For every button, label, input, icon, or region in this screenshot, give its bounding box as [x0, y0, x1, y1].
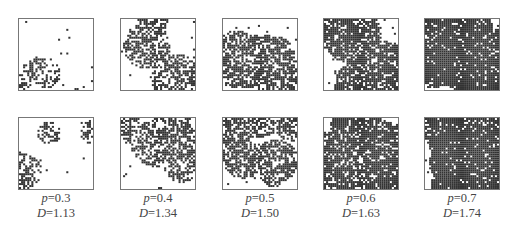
percolation-panel-r1-c5 [424, 18, 500, 91]
percolation-panel-r1-c1 [18, 18, 94, 91]
caption-col-1: p=0.3 D=1.13 [11, 191, 101, 221]
percolation-panel-r2-c2 [120, 117, 196, 190]
caption-col-4: p=0.6 D=1.63 [316, 191, 406, 221]
caption-col-3: p=0.5 D=1.50 [215, 191, 305, 221]
caption-col-5: p=0.7 D=1.74 [417, 191, 507, 221]
percolation-panel-r1-c4 [323, 18, 399, 91]
caption-col-2: p=0.4 D=1.34 [113, 191, 203, 221]
percolation-panel-r1-c3 [222, 18, 298, 91]
percolation-panel-r2-c3 [222, 117, 298, 190]
percolation-panel-r1-c2 [120, 18, 196, 91]
percolation-panel-r2-c1 [18, 117, 94, 190]
percolation-panel-r2-c4 [323, 117, 399, 190]
percolation-panel-r2-c5 [424, 117, 500, 190]
